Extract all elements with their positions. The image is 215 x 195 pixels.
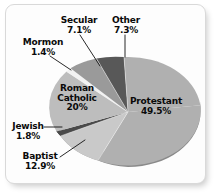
- slice-label-roman-catholic: Roman Catholic 20%: [51, 84, 103, 113]
- pie-chart-figure: Secular 7.1% Other 7.3% Mormon 1.4% Roma…: [0, 0, 215, 195]
- slice-label-mormon-name: Mormon: [23, 37, 63, 47]
- slice-label-roman-name: Roman: [60, 83, 94, 93]
- slice-label-protestant-pct: 49.5%: [124, 107, 188, 117]
- slice-label-mormon: Mormon 1.4%: [17, 38, 69, 57]
- leader-line-mormon: [50, 56, 71, 70]
- slice-label-baptist-name: Baptist: [22, 151, 57, 161]
- slice-label-secular-pct: 7.1%: [55, 26, 103, 36]
- slice-label-other-pct: 7.3%: [104, 26, 148, 36]
- slice-label-jewish-pct: 1.8%: [6, 132, 50, 142]
- slice-label-mormon-pct: 1.4%: [17, 48, 69, 58]
- slice-label-protestant: Protestant 49.5%: [124, 97, 188, 116]
- slice-label-baptist-pct: 12.9%: [16, 162, 64, 172]
- slice-label-jewish-name: Jewish: [12, 121, 43, 131]
- slice-label-baptist: Baptist 12.9%: [16, 152, 64, 171]
- slice-label-secular: Secular 7.1%: [55, 16, 103, 35]
- slice-label-other: Other 7.3%: [104, 16, 148, 35]
- slice-label-roman-pct: 20%: [51, 103, 103, 113]
- slice-label-jewish: Jewish 1.8%: [6, 122, 50, 141]
- slice-label-protestant-name: Protestant: [130, 96, 182, 106]
- slice-label-other-name: Other: [112, 15, 140, 25]
- slice-label-secular-name: Secular: [61, 15, 98, 25]
